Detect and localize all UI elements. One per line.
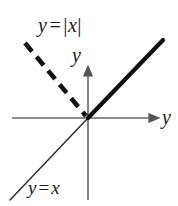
vertical-axis-label: y <box>72 45 81 65</box>
absolute-value-right-branch <box>88 40 163 118</box>
label-abs-argument: x <box>68 14 77 36</box>
label-line-rhs: x <box>51 177 59 198</box>
horizontal-axis-label: y <box>162 107 171 127</box>
label-abs-bar-right: | <box>77 13 82 37</box>
math-figure: y=|x| y y y=x <box>0 0 178 206</box>
label-abs-operator: = <box>47 14 63 36</box>
label-abs-lhs: y <box>38 14 47 36</box>
label-identity-line-equation: y=x <box>28 178 60 197</box>
label-line-operator: = <box>36 177 51 198</box>
graph-canvas <box>0 0 178 206</box>
label-absolute-value-equation: y=|x| <box>38 15 82 36</box>
